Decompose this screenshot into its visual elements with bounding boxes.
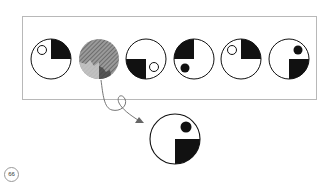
figure-2-missing xyxy=(79,39,119,80)
figure-6 xyxy=(269,39,309,79)
figure-4 xyxy=(174,39,214,79)
answer-figure xyxy=(150,114,200,164)
figure-5 xyxy=(221,39,261,79)
figure-3 xyxy=(126,39,166,79)
puzzle-diagram xyxy=(0,0,336,193)
page-number-badge: 66 xyxy=(4,167,19,182)
figure-1 xyxy=(31,39,71,79)
arrow-connector xyxy=(101,80,144,123)
